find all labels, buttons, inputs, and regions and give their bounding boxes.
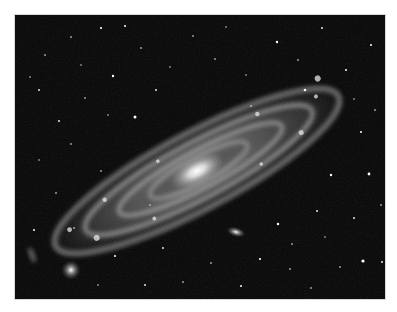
film-grain	[15, 15, 385, 299]
galaxy-photo: Spiral galaxy seen at an oblique angle a…	[15, 15, 385, 299]
galaxy-image-svg	[15, 15, 385, 299]
